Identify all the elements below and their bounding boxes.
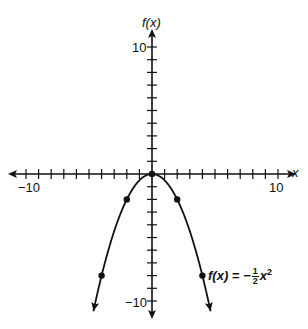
y-axis-label: f(x) [142, 16, 161, 29]
equation-fraction: 12 [252, 267, 259, 286]
x-max-label: 10 [269, 181, 283, 194]
data-point [199, 272, 205, 278]
data-point [149, 171, 155, 177]
chart-area: f(x) x −10 10 10 −10 f(x) = −12x2 [0, 0, 308, 329]
x-axis-label: x [292, 166, 299, 179]
fraction-denominator: 2 [252, 277, 259, 286]
y-min-label: −10 [125, 296, 147, 309]
data-point [174, 196, 180, 202]
x-min-label: −10 [18, 181, 40, 194]
equation-lhs: f(x) = − [208, 268, 251, 283]
equation-variable: x [260, 268, 267, 283]
y-max-label: 10 [132, 41, 146, 54]
equation-exponent: 2 [267, 267, 272, 277]
function-equation: f(x) = −12x2 [208, 267, 272, 286]
data-point [98, 272, 104, 278]
data-point [124, 196, 130, 202]
